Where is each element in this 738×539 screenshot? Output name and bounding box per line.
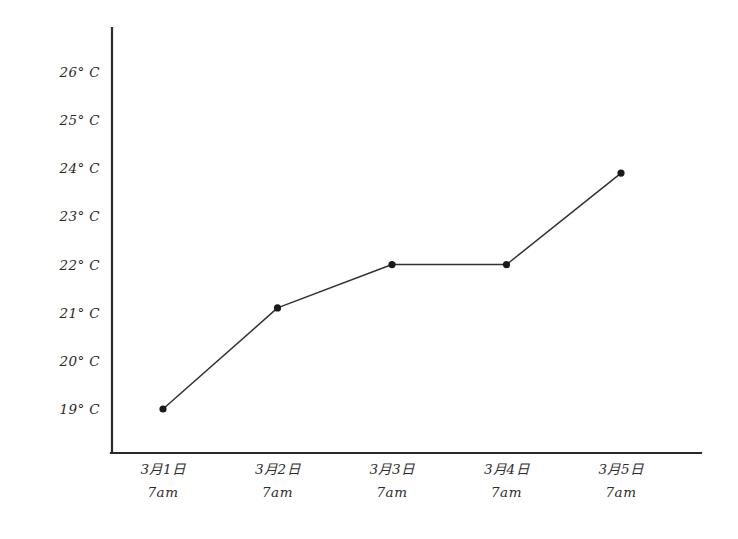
- data-point-4: [503, 261, 510, 268]
- x-tick-time-2: 7am: [255, 485, 300, 499]
- temperature-series-line: [163, 173, 621, 409]
- y-tick-label-23: 23° C: [34, 208, 100, 224]
- y-tick-label-26: 26° C: [34, 64, 100, 80]
- data-point-2: [274, 304, 281, 311]
- y-tick-label-20: 20° C: [34, 353, 100, 369]
- y-tick-label-24: 24° C: [34, 160, 100, 176]
- x-tick-time-5: 7am: [598, 485, 643, 499]
- x-tick-group-5: 3月5日7am: [598, 462, 643, 499]
- x-tick-time-4: 7am: [484, 485, 529, 499]
- x-tick-date-4: 3月4日: [484, 462, 529, 476]
- x-tick-group-3: 3月3日7am: [369, 462, 414, 499]
- y-tick-label-22: 22° C: [34, 257, 100, 273]
- data-point-3: [388, 261, 395, 268]
- x-tick-group-2: 3月2日7am: [255, 462, 300, 499]
- x-tick-date-3: 3月3日: [369, 462, 414, 476]
- data-point-1: [159, 405, 166, 412]
- y-tick-label-21: 21° C: [34, 305, 100, 321]
- x-tick-time-1: 7am: [140, 485, 185, 499]
- data-point-5: [617, 170, 624, 177]
- y-tick-label-25: 25° C: [34, 112, 100, 128]
- chart-plot-area: [0, 0, 738, 539]
- x-tick-date-5: 3月5日: [598, 462, 643, 476]
- x-tick-time-3: 7am: [369, 485, 414, 499]
- temperature-line-chart: 19° C20° C21° C22° C23° C24° C25° C26° C…: [0, 0, 738, 539]
- x-tick-date-1: 3月1日: [140, 462, 185, 476]
- x-tick-group-1: 3月1日7am: [140, 462, 185, 499]
- temperature-data-markers: [159, 170, 624, 413]
- x-tick-group-4: 3月4日7am: [484, 462, 529, 499]
- y-tick-label-19: 19° C: [34, 401, 100, 417]
- x-tick-date-2: 3月2日: [255, 462, 300, 476]
